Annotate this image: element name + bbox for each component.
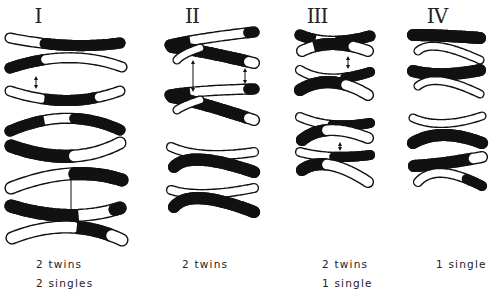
dark-segment [75, 174, 122, 180]
dark-segment [467, 179, 482, 186]
chromatid [11, 206, 120, 216]
column-title-III: III [297, 4, 337, 28]
chromatid [10, 118, 120, 131]
chromatid [302, 164, 368, 182]
chromatid [302, 130, 368, 140]
chromatid [171, 147, 254, 155]
light-segment [353, 47, 368, 52]
dark-segment [174, 198, 254, 212]
dark-segment [413, 135, 482, 143]
caption-I-line2: 2 singles [36, 277, 93, 289]
dark-segment [414, 159, 471, 166]
light-segment [473, 157, 482, 159]
chromatid [413, 70, 480, 74]
light-segment [79, 210, 113, 215]
chromatid [174, 198, 254, 212]
chromatid [300, 152, 370, 157]
column-I [10, 38, 122, 240]
light-segment [112, 236, 123, 241]
chromosome-configuration-figure: I II III IV 2 twins 2 singles 2 twins 2 … [0, 0, 497, 301]
dark-segment [11, 206, 76, 216]
double-arrow-icon [69, 176, 73, 213]
column-title-I: I [18, 4, 58, 28]
chromatid [11, 174, 122, 188]
dark-segment [10, 60, 42, 68]
column-III [300, 35, 370, 182]
caption-IV-line1: 1 single [436, 258, 487, 270]
dark-segment [314, 44, 352, 47]
dark-segment [174, 160, 254, 172]
chromatid [10, 91, 120, 101]
column-II [170, 32, 254, 212]
dark-segment [249, 32, 254, 33]
chromatid [11, 143, 120, 156]
dark-segment [45, 43, 120, 46]
light-segment [45, 58, 122, 67]
chromatid [418, 46, 480, 60]
column-title-II: II [172, 4, 212, 28]
dark-segment [11, 146, 74, 156]
chromatid-drawing [0, 0, 497, 301]
chromatid [418, 173, 482, 186]
dark-segment [77, 227, 112, 235]
double-arrow-icon [346, 56, 350, 69]
dark-segment [300, 35, 316, 40]
chromatid [171, 188, 254, 194]
chromatid [174, 160, 254, 172]
chromatid [413, 116, 482, 124]
double-arrow-icon [243, 68, 247, 84]
chromatid [302, 44, 368, 51]
caption-III-line2: 1 single [322, 277, 373, 289]
light-segment [302, 47, 314, 52]
column-title-IV: IV [417, 4, 457, 28]
light-segment [190, 89, 246, 92]
chromatid [413, 35, 480, 38]
dark-segment [300, 82, 346, 90]
dark-segment [334, 155, 370, 157]
dark-segment [413, 70, 480, 74]
caption-I-line1: 2 twins [36, 258, 82, 270]
light-segment [249, 62, 254, 63]
dark-segment [345, 72, 370, 78]
chromatid [300, 82, 368, 95]
double-arrow-icon [338, 142, 342, 151]
light-segment [10, 38, 42, 43]
chromatid [12, 227, 122, 240]
double-arrow-icon [34, 76, 38, 89]
dark-segment [44, 98, 96, 101]
light-segment [44, 118, 72, 120]
chromatid [418, 81, 480, 94]
light-segment [327, 165, 368, 183]
caption-II-line1: 2 twins [182, 258, 228, 270]
dark-segment [75, 119, 120, 131]
light-segment [418, 81, 480, 94]
light-segment [249, 118, 254, 120]
dark-segment [10, 121, 41, 131]
chromatid [10, 38, 120, 46]
dark-segment [115, 208, 120, 210]
chromatid [414, 157, 482, 166]
column-IV [413, 35, 482, 186]
dark-segment [413, 35, 480, 38]
caption-III-line1: 2 twins [322, 258, 368, 270]
chromatid [413, 135, 482, 143]
chromatid [10, 58, 122, 68]
